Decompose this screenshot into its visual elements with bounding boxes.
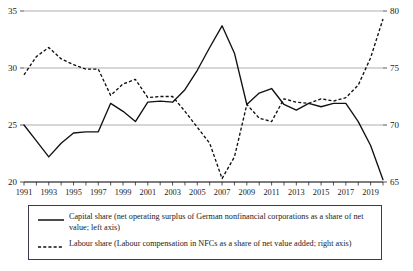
left-axis-tick-label: 25 bbox=[8, 120, 18, 130]
x-axis-tick-label: 2013 bbox=[288, 188, 305, 196]
right-axis-tick-label: 75 bbox=[390, 63, 400, 73]
x-axis-tick-label: 2001 bbox=[139, 188, 156, 196]
legend-label-labour-share: Labour share (Labour compensation in NFC… bbox=[64, 239, 375, 250]
plot-svg: 20253035 65707580 1991199319951997199920… bbox=[0, 0, 413, 196]
series-line-labour-share bbox=[24, 19, 383, 179]
x-axis-tick-label: 1991 bbox=[16, 188, 33, 196]
right-axis-tick-labels: 65707580 bbox=[390, 6, 400, 187]
data-series-group bbox=[24, 19, 383, 180]
x-axis-tick-label: 2007 bbox=[214, 188, 231, 196]
x-axis-tick-label: 2017 bbox=[338, 188, 355, 196]
chart-figure: 20253035 65707580 1991199319951997199920… bbox=[0, 0, 413, 271]
left-axis-ticks bbox=[20, 11, 24, 182]
x-axis-tick-label: 1995 bbox=[65, 188, 82, 196]
plot-area: 20253035 65707580 1991199319951997199920… bbox=[0, 0, 413, 196]
legend-item-capital-share: Capital share (net operating surplus of … bbox=[38, 212, 375, 233]
chart-legend: Capital share (net operating surplus of … bbox=[28, 205, 382, 260]
left-axis-tick-labels: 20253035 bbox=[8, 6, 18, 187]
x-axis-tick-label: 2019 bbox=[362, 188, 379, 196]
legend-key-solid-line-icon bbox=[38, 215, 64, 225]
left-axis-tick-label: 30 bbox=[8, 63, 18, 73]
x-axis-tick-label: 2003 bbox=[164, 188, 181, 196]
x-axis-tick-label: 2005 bbox=[189, 188, 206, 196]
x-axis-tick-labels: 1991199319951997199920012003200520072009… bbox=[16, 188, 379, 196]
right-axis-tick-label: 70 bbox=[390, 120, 400, 130]
x-axis-tick-label: 1993 bbox=[40, 188, 57, 196]
x-axis-tick-label: 1999 bbox=[115, 188, 132, 196]
x-axis-tick-label: 2009 bbox=[239, 188, 256, 196]
series-line-capital-share bbox=[24, 26, 383, 180]
x-axis-tick-label: 2015 bbox=[313, 188, 330, 196]
legend-key-dashed-line-icon bbox=[38, 242, 64, 252]
left-axis-tick-label: 35 bbox=[8, 6, 18, 16]
legend-item-labour-share: Labour share (Labour compensation in NFC… bbox=[38, 239, 375, 252]
right-axis-ticks bbox=[383, 11, 387, 182]
x-axis-tick-label: 1997 bbox=[90, 188, 107, 196]
right-axis-tick-label: 80 bbox=[390, 6, 400, 16]
gridlines bbox=[24, 11, 383, 182]
x-axis-tick-label: 2011 bbox=[263, 188, 279, 196]
legend-label-capital-share: Capital share (net operating surplus of … bbox=[64, 212, 375, 233]
x-axis-ticks bbox=[24, 182, 383, 186]
right-axis-tick-label: 65 bbox=[390, 177, 400, 187]
left-axis-tick-label: 20 bbox=[8, 177, 18, 187]
